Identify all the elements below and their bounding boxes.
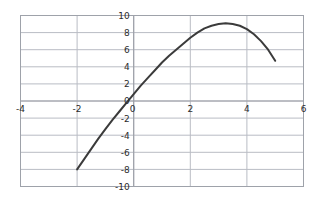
y-tick-label: 2 [124,79,130,89]
x-tick-label: 0 [130,104,136,114]
chart-container: -4-20246 1086420-2-4-6-8-10 [0,0,315,200]
y-tick-label: -8 [121,165,130,175]
x-tick-label: -2 [73,104,82,114]
x-tick-label: 2 [187,104,193,114]
y-tick-label: 10 [118,11,130,21]
y-tick-label: 4 [124,62,130,72]
x-tick-label: 6 [301,104,307,114]
y-tick-label: -4 [121,131,130,141]
y-tick-label: -10 [115,182,130,192]
y-tick-label: -6 [121,148,130,158]
y-tick-label: 8 [124,28,130,38]
chart-background [0,0,315,200]
y-tick-label: -2 [121,114,130,124]
y-tick-label: 0 [124,96,130,106]
y-tick-label: 6 [124,45,130,55]
x-tick-label: -4 [16,104,25,114]
x-tick-label: 4 [244,104,250,114]
graph-plot: -4-20246 1086420-2-4-6-8-10 [0,0,315,200]
